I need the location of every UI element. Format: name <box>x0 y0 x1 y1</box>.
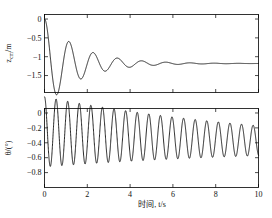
ytick-label: −1 <box>33 53 42 62</box>
ytick-label: −0.5 <box>27 34 42 43</box>
svg-text:zcm/m: zcm/m <box>4 43 14 63</box>
xtick-label: 6 <box>171 190 175 199</box>
top-panel-xtick-marks <box>45 15 259 93</box>
ytick-label: −1.5 <box>27 71 42 80</box>
xtick-label: 2 <box>85 190 89 199</box>
ytick-label: −0.6 <box>27 153 42 162</box>
figure-container: 0−0.5−1−1.5 zcm/m 0−0.2−0.4−0.6−0.8 θ/(°… <box>0 0 272 218</box>
xtick-label: 4 <box>128 190 132 199</box>
xaxis-title: 时间, t/s <box>138 199 166 209</box>
svg-text:θ/(°): θ/(°) <box>4 140 13 155</box>
bottom-panel-ytick-labels: 0−0.2−0.4−0.6−0.8 <box>27 109 42 178</box>
xtick-label: 0 <box>43 190 47 199</box>
top-panel-ytick-labels: 0−0.5−1−1.5 <box>27 15 42 81</box>
top-panel-ylabel: zcm/m <box>4 43 14 63</box>
ytick-label: 0 <box>38 109 42 118</box>
ytick-label: −0.2 <box>27 124 42 133</box>
top-panel-frame <box>45 15 259 93</box>
xtick-label: 8 <box>214 190 218 199</box>
top-panel: 0−0.5−1−1.5 zcm/m <box>4 15 259 95</box>
bottom-panel-ylabel: θ/(°) <box>4 140 13 155</box>
ytick-label: −0.4 <box>27 139 42 148</box>
top-ylabel-unit: /m <box>4 43 13 52</box>
ytick-label: −0.8 <box>27 168 42 177</box>
ytick-label: 0 <box>38 15 42 24</box>
two-panel-time-series-plot: 0−0.5−1−1.5 zcm/m 0−0.2−0.4−0.6−0.8 θ/(°… <box>0 0 272 218</box>
xtick-labels: 0246810 <box>43 190 263 199</box>
top-panel-ytick-marks <box>45 19 259 76</box>
xtick-label: 10 <box>255 190 263 199</box>
theta-curve <box>45 97 259 167</box>
bottom-panel: 0−0.2−0.4−0.6−0.8 θ/(°) <box>4 97 259 188</box>
bottom-ylabel-unit: /(°) <box>4 140 13 151</box>
z-cm-curve <box>45 19 259 95</box>
